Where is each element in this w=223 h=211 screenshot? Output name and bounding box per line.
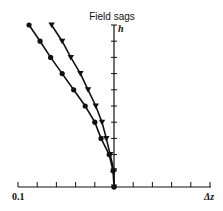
triangle-marker	[59, 39, 65, 45]
x-axis-label: Δz	[203, 191, 214, 202]
circle-marker	[37, 39, 42, 44]
triangle-marker	[99, 120, 105, 126]
circle-marker	[60, 71, 65, 76]
circle-marker	[92, 120, 97, 125]
series-circles	[26, 22, 116, 189]
circle-marker	[71, 87, 76, 92]
chart-title: Field sags	[89, 11, 135, 22]
triangle-marker	[77, 71, 83, 77]
triangle-marker	[85, 87, 91, 93]
y-axis-label: h	[118, 23, 124, 34]
triangle-marker	[103, 136, 109, 142]
circle-marker	[48, 55, 53, 60]
x-tick-label-left: 0.1	[12, 191, 25, 202]
triangle-marker	[93, 104, 99, 110]
series-line	[29, 25, 114, 187]
circle-marker	[26, 22, 31, 27]
triangle-marker	[68, 55, 74, 61]
circle-marker	[83, 103, 88, 108]
axes	[18, 25, 211, 187]
data-series	[26, 22, 117, 190]
circle-marker	[98, 136, 103, 141]
field-sags-chart: Field sags h 0.1 Δz	[0, 0, 223, 211]
